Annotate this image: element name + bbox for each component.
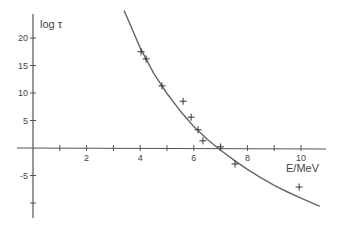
plot-area: 2468102015105-5 log τ E/MeV [0, 0, 339, 233]
fit-line [124, 11, 320, 207]
y-tick-label: 15 [18, 61, 28, 71]
data-points [138, 48, 303, 190]
y-tick-label: -5 [20, 171, 28, 181]
plus-marker [296, 184, 303, 191]
x-tick-label: 6 [191, 153, 196, 163]
x-tick-label: 4 [138, 153, 143, 163]
x-axis [17, 148, 326, 149]
plus-marker [143, 55, 150, 62]
chart: 2468102015105-5 log τ E/MeV [0, 0, 339, 233]
x-tick-label: 2 [84, 153, 89, 163]
fit-curve [124, 11, 320, 207]
plus-marker [232, 160, 239, 167]
y-tick-label: 20 [18, 33, 28, 43]
plus-marker [217, 143, 224, 150]
y-axis-label: log τ [40, 18, 63, 30]
x-tick-label: 8 [245, 153, 250, 163]
y-tick-label: 10 [18, 88, 28, 98]
y-tick-label: 5 [23, 116, 28, 126]
x-axis-label: E/MeV [286, 162, 320, 174]
plus-marker [180, 98, 187, 105]
